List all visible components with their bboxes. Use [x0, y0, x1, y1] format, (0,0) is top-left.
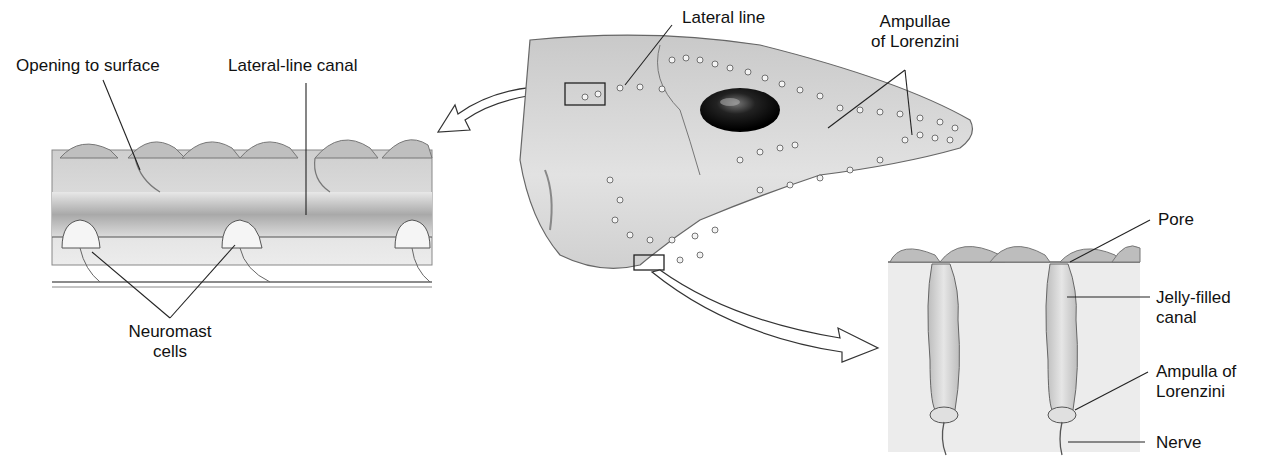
- label-ampullae-of-lorenzini: Ampullae of Lorenzini: [860, 12, 970, 52]
- diagram-canvas: [0, 0, 1268, 471]
- ampulla-panel: [888, 220, 1150, 455]
- label-ampulla-line2: Lorenzini: [1156, 382, 1236, 402]
- label-jelly-line2: canal: [1156, 308, 1231, 328]
- label-lateral-line-canal: Lateral-line canal: [228, 56, 357, 76]
- label-pore: Pore: [1158, 210, 1194, 230]
- label-jelly-filled-canal: Jelly-filled canal: [1156, 288, 1231, 328]
- label-neuromast-line2: cells: [120, 342, 220, 362]
- label-nerve: Nerve: [1156, 433, 1201, 453]
- label-jelly-line1: Jelly-filled: [1156, 288, 1231, 308]
- lateral-line-panel: [52, 80, 432, 318]
- label-neuromast-cells: Neuromast cells: [120, 322, 220, 362]
- shark-head: [520, 25, 972, 270]
- arrow-to-ampulla: [652, 270, 878, 362]
- label-ampullae-line2: of Lorenzini: [860, 32, 970, 52]
- label-ampulla-of-lorenzini: Ampulla of Lorenzini: [1156, 362, 1236, 402]
- label-ampulla-line1: Ampulla of: [1156, 362, 1236, 382]
- label-ampullae-line1: Ampullae: [860, 12, 970, 32]
- label-opening-to-surface: Opening to surface: [16, 56, 160, 76]
- label-lateral-line: Lateral line: [682, 8, 765, 28]
- label-neuromast-line1: Neuromast: [120, 322, 220, 342]
